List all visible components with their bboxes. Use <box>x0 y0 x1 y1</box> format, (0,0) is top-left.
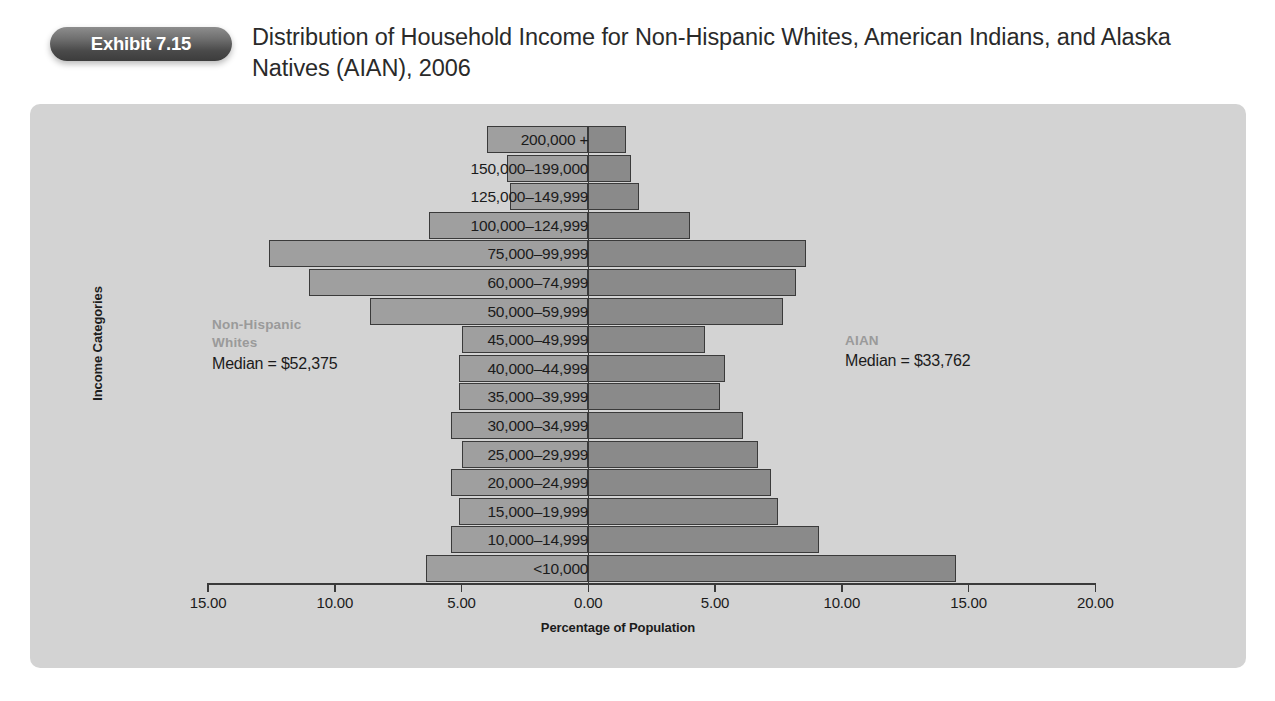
x-axis-tick <box>334 583 336 592</box>
bar-right-aian <box>588 498 778 525</box>
bar-row: 40,000–44,999 <box>30 355 1246 382</box>
x-axis-tick <box>588 583 590 592</box>
bar-row: 125,000–149,999 <box>30 183 1246 210</box>
bar-row: <10,000 <box>30 555 1246 582</box>
bar-row: 35,000–39,999 <box>30 383 1246 410</box>
bar-right-aian <box>588 240 806 267</box>
bar-right-aian <box>588 155 631 182</box>
x-axis-tick <box>968 583 970 592</box>
bar-row: 60,000–74,999 <box>30 269 1246 296</box>
category-label: 60,000–74,999 <box>30 269 594 296</box>
category-label: 150,000–199,000 <box>30 155 594 182</box>
x-axis-tick-label: 0.00 <box>574 594 602 611</box>
category-label: 20,000–24,999 <box>30 469 594 496</box>
bar-row: 10,000–14,999 <box>30 526 1246 553</box>
bar-right-aian <box>588 469 771 496</box>
category-label: 40,000–44,999 <box>30 355 594 382</box>
category-label: 10,000–14,999 <box>30 526 594 553</box>
bar-right-aian <box>588 298 783 325</box>
bar-row: 100,000–124,999 <box>30 212 1246 239</box>
x-axis-tick-label: 20.00 <box>1077 594 1114 611</box>
category-label: 25,000–29,999 <box>30 441 594 468</box>
bar-right-aian <box>588 183 639 210</box>
category-label: 35,000–39,999 <box>30 383 594 410</box>
bar-row: 20,000–24,999 <box>30 469 1246 496</box>
category-label: 125,000–149,999 <box>30 183 594 210</box>
bar-right-aian <box>588 326 705 353</box>
category-label: 15,000–19,999 <box>30 498 594 525</box>
x-axis-tick <box>714 583 716 592</box>
exhibit-title: Distribution of Household Income for Non… <box>252 22 1242 84</box>
bar-row: 30,000–34,999 <box>30 412 1246 439</box>
exhibit-header: Exhibit 7.15 Distribution of Household I… <box>0 0 1275 105</box>
bar-right-aian <box>588 441 758 468</box>
bar-right-aian <box>588 355 725 382</box>
bar-row: 45,000–49,999 <box>30 326 1246 353</box>
bar-row: 200,000 + <box>30 126 1246 153</box>
category-label: 75,000–99,999 <box>30 240 594 267</box>
x-axis-title: Percentage of Population <box>30 620 1246 635</box>
category-label: <10,000 <box>30 555 594 582</box>
exhibit-badge-label: Exhibit 7.15 <box>91 33 191 55</box>
exhibit-badge: Exhibit 7.15 <box>50 27 232 61</box>
x-axis-tick-label: 15.00 <box>950 594 987 611</box>
x-axis-tick-label: 5.00 <box>701 594 729 611</box>
chart-panel: Income Categories 200,000 +150,000–199,0… <box>30 104 1246 668</box>
x-axis-title-text: Percentage of Population <box>541 620 695 635</box>
bar-row: 75,000–99,999 <box>30 240 1246 267</box>
bar-right-aian <box>588 526 819 553</box>
bar-right-aian <box>588 269 796 296</box>
category-label: 200,000 + <box>30 126 594 153</box>
x-axis-tick-label: 15.00 <box>190 594 227 611</box>
category-label: 45,000–49,999 <box>30 326 594 353</box>
annotation-aian: AIAN Median = $33,762 <box>845 332 970 370</box>
bar-right-aian <box>588 212 689 239</box>
category-label: 50,000–59,999 <box>30 298 594 325</box>
x-axis-tick <box>461 583 463 592</box>
bar-right-aian <box>588 412 743 439</box>
x-axis-tick-label: 10.00 <box>824 594 861 611</box>
x-axis-tick <box>207 583 209 592</box>
bar-row: 15,000–19,999 <box>30 498 1246 525</box>
bar-row: 25,000–29,999 <box>30 441 1246 468</box>
x-axis-line <box>208 583 1095 585</box>
x-axis-tick-label: 10.00 <box>317 594 354 611</box>
bar-right-aian <box>588 383 720 410</box>
annotation-right-group: AIAN <box>845 332 970 350</box>
category-label: 100,000–124,999 <box>30 212 594 239</box>
x-axis-tick <box>841 583 843 592</box>
bar-row: 150,000–199,000 <box>30 155 1246 182</box>
plot-area: Income Categories 200,000 +150,000–199,0… <box>30 104 1246 668</box>
category-label: 30,000–34,999 <box>30 412 594 439</box>
x-axis-tick <box>1095 583 1097 592</box>
bar-row: 50,000–59,999 <box>30 298 1246 325</box>
annotation-right-median: Median = $33,762 <box>845 352 970 370</box>
bar-right-aian <box>588 555 956 582</box>
x-axis-tick-label: 5.00 <box>447 594 475 611</box>
